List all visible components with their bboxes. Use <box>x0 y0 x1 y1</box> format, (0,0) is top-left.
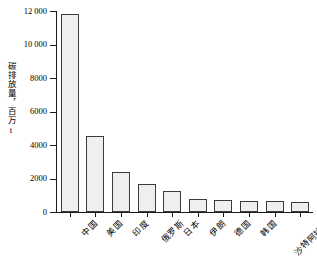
y-tick-label-wrap: 12 000 <box>0 7 47 16</box>
x-tick-mark <box>275 213 276 217</box>
x-tick-label: 印度 <box>131 219 150 238</box>
y-tick-mark <box>50 179 57 180</box>
x-tick-label: 日本 <box>182 219 201 238</box>
bar <box>189 199 207 212</box>
plot-area <box>57 11 313 212</box>
y-tick-label: 4000 <box>3 141 47 150</box>
y-tick-label-wrap: 4000 <box>0 141 47 150</box>
y-tick-label-wrap: 2000 <box>0 174 47 183</box>
x-tick-mark <box>223 213 224 217</box>
x-tick-label: 中国 <box>80 219 99 238</box>
x-tick-mark <box>95 213 96 217</box>
bar <box>163 191 181 212</box>
y-tick-mark <box>50 212 57 213</box>
x-tick-mark <box>300 213 301 217</box>
x-tick-label: 美国 <box>106 219 125 238</box>
x-tick-mark <box>121 213 122 217</box>
bar <box>61 14 79 212</box>
y-tick-label-wrap: 8000 <box>0 74 47 83</box>
x-tick-label: 俄罗斯 <box>160 219 185 244</box>
x-tick-mark <box>147 213 148 217</box>
y-tick-mark <box>50 45 57 46</box>
bar <box>138 184 156 212</box>
x-tick-label: 伊朗 <box>208 219 227 238</box>
bar <box>240 201 258 212</box>
y-tick-label: 2000 <box>3 174 47 183</box>
bar <box>214 200 232 212</box>
y-tick-label: 6000 <box>3 107 47 116</box>
x-tick-label: 德国 <box>234 219 253 238</box>
x-tick-label: 沙特阿拉伯 <box>293 219 317 257</box>
y-tick-mark <box>50 112 57 113</box>
y-tick-label: 12 000 <box>3 7 47 16</box>
bar <box>86 136 104 212</box>
y-tick-label-wrap: 10 000 <box>0 40 47 49</box>
x-tick-mark <box>198 213 199 217</box>
x-tick-label: 韩国 <box>259 219 278 238</box>
x-tick-mark <box>249 213 250 217</box>
y-tick-label: 10 000 <box>3 40 47 49</box>
y-tick-label: 8000 <box>3 74 47 83</box>
y-tick-mark <box>50 78 57 79</box>
y-tick-label-wrap: 0 <box>0 208 47 217</box>
y-tick-mark <box>50 11 57 12</box>
bar <box>266 201 284 212</box>
y-tick-label-wrap: 6000 <box>0 107 47 116</box>
x-tick-mark <box>172 213 173 217</box>
bar <box>291 202 309 212</box>
y-tick-mark <box>50 145 57 146</box>
bar <box>112 172 130 212</box>
bar-chart: 碳排放量，百万t 0200040006000800010 00012 000 中… <box>0 0 317 275</box>
x-tick-mark <box>70 213 71 217</box>
y-tick-label: 0 <box>3 208 47 217</box>
